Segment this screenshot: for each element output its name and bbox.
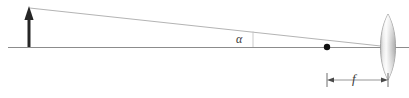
object-arrow <box>24 6 33 47</box>
lens-highlight <box>381 14 396 80</box>
focal-length-dimension <box>327 73 388 87</box>
chief-ray <box>30 8 391 47</box>
lens <box>381 14 396 80</box>
optics-ray-diagram-figure: α f <box>0 0 409 98</box>
focal-length-label: f <box>352 72 356 85</box>
angle-alpha-label: α <box>236 33 242 45</box>
focal-dimension-left-arrowhead-icon <box>327 77 334 82</box>
focal-point-dot <box>324 44 330 50</box>
ray-diagram-canvas <box>0 0 409 98</box>
